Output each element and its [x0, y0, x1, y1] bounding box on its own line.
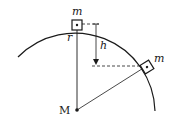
top-mass-block — [72, 20, 82, 30]
radius-label: r — [67, 31, 73, 44]
side-mass-label: m — [154, 52, 164, 65]
diagram-canvas: m m r h M — [0, 0, 174, 124]
top-mass-label: m — [72, 5, 82, 18]
radius-line-diagonal — [77, 67, 145, 110]
center-point-dot — [75, 108, 79, 112]
height-label: h — [100, 39, 107, 52]
circular-surface-arc — [18, 33, 155, 111]
height-arrow — [93, 24, 99, 65]
center-mass-label: M — [59, 104, 70, 117]
side-mass-block — [140, 60, 154, 74]
